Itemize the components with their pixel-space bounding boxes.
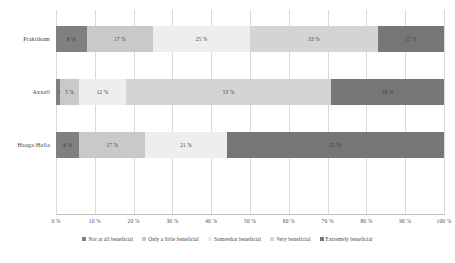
x-axis-tick-label: 30 % (166, 218, 178, 224)
x-axis-line (56, 214, 444, 215)
legend-label: Extremely beneficial (326, 236, 373, 242)
bar-series-group: 8 %17 %25 %33 %17 %1 %5 %12 %53 %29 %6 %… (56, 10, 444, 215)
bar-segment-label: 33 % (308, 36, 320, 42)
bar-segment: 17 % (87, 26, 153, 52)
legend-swatch-icon (270, 237, 274, 241)
stacked-bar-chart: Praktikum Axxell Haaga-Helia 8 %17 %25 %… (0, 0, 455, 263)
bar-row: 1 %5 %12 %53 %29 % (56, 79, 444, 105)
legend-label: Only a little beneficial (148, 236, 199, 242)
x-axis-tick-label: 70 % (322, 218, 334, 224)
bar-segment: 5 % (60, 79, 79, 105)
bar-segment-label: 8 % (67, 36, 76, 42)
category-label-haaga-helia: Haaga-Helia (17, 142, 50, 148)
bar-segment: 55 % (227, 132, 444, 158)
gridline (444, 10, 445, 215)
x-axis-tick-label: 40 % (205, 218, 217, 224)
plot-area: 8 %17 %25 %33 %17 %1 %5 %12 %53 %29 %6 %… (56, 10, 444, 215)
bar-segment: 8 % (56, 26, 87, 52)
category-label-axxell: Axxell (32, 89, 50, 95)
legend-label: Very beneficial (276, 236, 310, 242)
x-axis-tick-label: 100 % (437, 218, 452, 224)
legend-item[interactable]: Only a little beneficial (142, 236, 199, 242)
bar-segment: 53 % (126, 79, 332, 105)
x-axis-tick-labels: 0 %10 %20 %30 %40 %50 %60 %70 %80 %90 %1… (56, 218, 444, 232)
bar-segment-label: 17 % (106, 142, 118, 148)
legend-item[interactable]: Somewhat beneficial (208, 236, 261, 242)
legend-label: Not at all beneficial (88, 236, 133, 242)
bar-segment-label: 53 % (223, 89, 235, 95)
chart-legend: Not at all beneficialOnly a little benef… (0, 236, 455, 242)
bar-segment-label: 29 % (382, 89, 394, 95)
bar-segment-label: 12 % (97, 89, 109, 95)
bar-segment: 17 % (79, 132, 145, 158)
legend-swatch-icon (320, 237, 324, 241)
x-axis-tick-label: 50 % (244, 218, 256, 224)
legend-swatch-icon (82, 237, 86, 241)
x-axis-tick-label: 0 % (51, 218, 60, 224)
bar-segment-label: 5 % (65, 89, 74, 95)
category-axis: Praktikum Axxell Haaga-Helia (0, 10, 54, 215)
bar-segment: 12 % (79, 79, 126, 105)
bar-segment-label: 25 % (196, 36, 208, 42)
bar-segment-label: 17 % (405, 36, 417, 42)
legend-label: Somewhat beneficial (214, 236, 261, 242)
legend-swatch-icon (208, 237, 212, 241)
bar-segment: 29 % (331, 79, 444, 105)
bar-segment-label: 6 % (63, 142, 72, 148)
x-axis-tick-label: 10 % (89, 218, 101, 224)
x-axis-tick-label: 90 % (399, 218, 411, 224)
legend-item[interactable]: Extremely beneficial (320, 236, 373, 242)
x-axis-tick-label: 20 % (128, 218, 140, 224)
category-label-praktikum: Praktikum (23, 36, 50, 42)
bar-segment-label: 55 % (330, 142, 342, 148)
bar-segment-label: 17 % (114, 36, 126, 42)
legend-swatch-icon (142, 237, 146, 241)
legend-item[interactable]: Not at all beneficial (82, 236, 133, 242)
x-axis-tick-label: 60 % (283, 218, 295, 224)
bar-segment: 33 % (250, 26, 378, 52)
bar-segment: 6 % (56, 132, 79, 158)
bar-segment-label: 21 % (180, 142, 192, 148)
legend-item[interactable]: Very beneficial (270, 236, 310, 242)
bar-row: 8 %17 %25 %33 %17 % (56, 26, 444, 52)
bar-segment: 17 % (378, 26, 444, 52)
bar-segment: 21 % (145, 132, 226, 158)
bar-row: 6 %17 %21 %55 % (56, 132, 444, 158)
x-axis-tick-label: 80 % (360, 218, 372, 224)
bar-segment: 25 % (153, 26, 250, 52)
